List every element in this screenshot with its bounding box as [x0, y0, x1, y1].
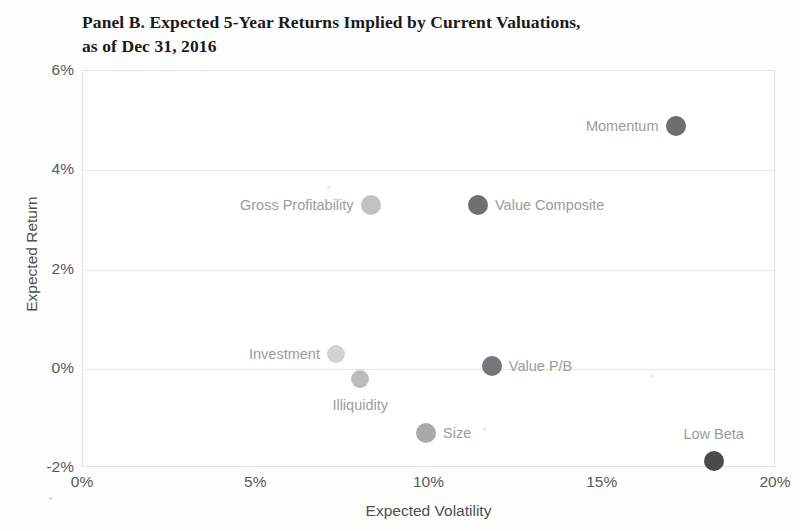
gridline-y-0pct — [83, 369, 774, 370]
chart-figure: Panel B. Expected 5-Year Returns Implied… — [0, 0, 800, 531]
scan-speck — [651, 375, 654, 377]
x-axis-tick-label: 10% — [394, 474, 464, 490]
page-title: Panel B. Expected 5-Year Returns Implied… — [82, 10, 782, 58]
y-axis-title: Expected Return — [23, 159, 41, 349]
plot-area: MomentumGross ProfitabilityValue Composi… — [82, 70, 775, 467]
y-axis-tick-label: -2% — [14, 459, 74, 475]
data-point-value-p-b[interactable] — [482, 356, 502, 376]
data-point-label-size: Size — [443, 426, 471, 441]
scan-speck — [483, 428, 486, 430]
data-point-label-value-composite: Value Composite — [495, 197, 604, 212]
data-point-label-low-beta: Low Beta — [683, 427, 743, 442]
x-axis-tick-label: 5% — [220, 474, 290, 490]
data-point-value-composite[interactable] — [468, 195, 488, 215]
data-point-momentum[interactable] — [666, 116, 686, 136]
data-point-investment[interactable] — [327, 345, 345, 363]
y-axis-tick-label: 0% — [14, 360, 74, 376]
scan-speck — [49, 497, 52, 500]
data-point-label-value-p-b: Value P/B — [509, 359, 572, 374]
data-point-illiquidity[interactable] — [351, 370, 369, 388]
data-point-label-gross-profitability: Gross Profitability — [240, 197, 354, 212]
data-point-low-beta[interactable] — [704, 451, 724, 471]
data-point-label-momentum: Momentum — [586, 118, 659, 133]
data-point-label-illiquidity: Illiquidity — [332, 398, 388, 413]
y-axis-tick-label: 6% — [14, 62, 74, 78]
gridline-y-2pct — [83, 270, 774, 271]
x-axis-tick-label: 15% — [567, 474, 637, 490]
x-axis-title: Expected Volatility — [82, 502, 775, 520]
chart-title-line-2: as of Dec 31, 2016 — [82, 36, 217, 56]
data-point-size[interactable] — [416, 423, 436, 443]
x-axis-tick-label: 0% — [47, 474, 117, 490]
data-point-label-investment: Investment — [249, 346, 320, 361]
x-axis-tick-label: 20% — [740, 474, 800, 490]
data-point-gross-profitability[interactable] — [361, 195, 381, 215]
chart-title-line-1: Panel B. Expected 5-Year Returns Implied… — [82, 12, 581, 32]
gridline-y-4pct — [83, 170, 774, 171]
scan-speck — [327, 186, 330, 188]
